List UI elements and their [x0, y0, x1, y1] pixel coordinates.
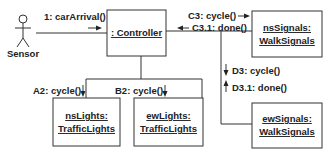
- arrow-down-icon: [81, 85, 86, 97]
- actor-head: [19, 15, 27, 23]
- arrow-up-icon: [224, 80, 229, 92]
- nslights-label-line2: TrafficLights: [58, 123, 115, 134]
- nslights-label-line1: nsLights:: [65, 110, 108, 121]
- ewsignals-object: ewSignals: WalkSignals: [252, 103, 322, 148]
- arrow-down-icon: [224, 64, 229, 76]
- actor-label: Sensor: [7, 48, 40, 59]
- nslights-object: nsLights: TrafficLights: [53, 98, 120, 146]
- arrow-left-icon: [177, 26, 189, 31]
- ewlights-object: ewLights: TrafficLights: [134, 98, 203, 146]
- message-c3-cycle: C3: cycle(): [188, 10, 236, 21]
- actor-left-leg: [17, 38, 23, 47]
- ewlights-label-line1: ewLights:: [146, 110, 190, 121]
- nssignals-label-line2: WalkSignals: [259, 35, 315, 46]
- message-d3-1-done: D3.1: done(): [232, 82, 287, 93]
- link-controller-ewsignals: [221, 31, 252, 124]
- arrow-right-icon: [88, 26, 102, 31]
- message-b2-cycle: B2: cycle(): [115, 85, 163, 96]
- message-d3-cycle: D3: cycle(): [232, 65, 280, 76]
- ewlights-label-line2: TrafficLights: [140, 123, 197, 134]
- ewsignals-label-line2: WalkSignals: [259, 126, 315, 137]
- message-c3-1-done: C3.1: done(): [192, 22, 247, 33]
- communication-diagram: Sensor 1: carArrival() : Controller C3: …: [0, 0, 330, 156]
- sensor-actor: Sensor: [7, 15, 40, 59]
- message-a2-cycle: A2: cycle(): [33, 85, 81, 96]
- message-car-arrival: 1: carArrival(): [44, 11, 106, 22]
- arrow-right-icon: [238, 14, 250, 19]
- actor-right-leg: [23, 38, 29, 47]
- nssignals-label-line1: nsSignals:: [263, 22, 311, 33]
- ewsignals-label-line1: ewSignals:: [262, 113, 312, 124]
- arrow-down-icon: [163, 85, 168, 97]
- nssignals-object: nsSignals: WalkSignals: [252, 11, 322, 57]
- controller-object: : Controller: [107, 10, 166, 56]
- controller-label: : Controller: [111, 27, 162, 38]
